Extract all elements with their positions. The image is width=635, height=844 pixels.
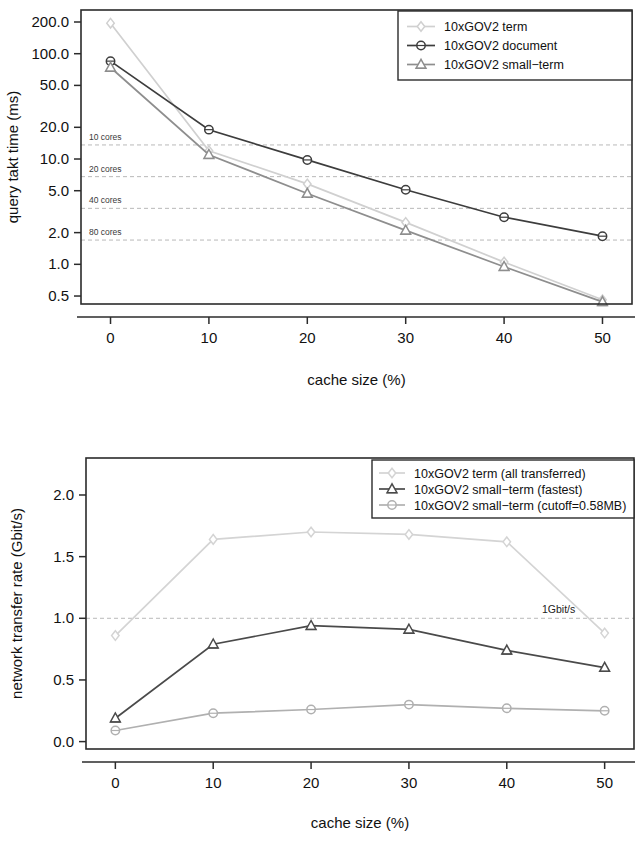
legend-item-2: 10xGOV2 small−term (cutoff=0.58MB) [379, 499, 626, 513]
network-transfer-rate-plot: 1Gbit/s0.00.51.01.52.001020304050cache s… [0, 420, 635, 844]
legend-label-0: 10xGOV2 term (all transferred) [414, 467, 586, 481]
y-tick-label-4: 10.0 [40, 150, 69, 167]
x-tick-label-0: 0 [106, 329, 114, 346]
data-point-1-0 [110, 713, 120, 722]
chart-network-transfer-rate: 1Gbit/s0.00.51.01.52.001020304050cache s… [0, 420, 635, 844]
series-line-1 [111, 61, 603, 236]
legend-label-2: 10xGOV2 small−term (cutoff=0.58MB) [414, 499, 626, 513]
query-takt-time-plot: 10 cores20 cores40 cores80 cores200.0100… [0, 0, 635, 420]
data-point-0-2 [307, 527, 314, 537]
x-tick-label-1: 10 [201, 329, 218, 346]
x-axis-title: cache size (%) [311, 814, 409, 831]
y-tick-label-1: 100.0 [31, 45, 69, 62]
y-tick-label-3: 20.0 [40, 118, 69, 135]
y-tick-label-8: 0.5 [48, 287, 69, 304]
reference-line-label-2: 40 cores [89, 195, 122, 205]
y-tick-label-0: 0.0 [53, 733, 74, 750]
reference-line-label-1: 20 cores [89, 164, 122, 174]
x-tick-label-3: 30 [397, 329, 414, 346]
x-tick-label-1: 10 [205, 774, 222, 791]
x-tick-label-5: 50 [596, 774, 613, 791]
series-2 [111, 700, 609, 734]
series-line-2 [111, 68, 603, 302]
legend-label-1: 10xGOV2 document [444, 39, 558, 53]
x-tick-label-2: 20 [303, 774, 320, 791]
series-2 [105, 62, 607, 305]
x-tick-label-4: 40 [496, 329, 513, 346]
series-1 [106, 57, 606, 240]
x-tick-label-0: 0 [111, 774, 119, 791]
y-tick-label-2: 50.0 [40, 76, 69, 93]
reference-line-label-3: 80 cores [89, 227, 122, 237]
series-0 [112, 527, 609, 640]
x-tick-label-4: 40 [498, 774, 515, 791]
y-tick-label-0: 200.0 [31, 13, 69, 30]
y-tick-label-2: 1.0 [53, 609, 74, 626]
x-axis-title: cache size (%) [307, 371, 405, 388]
reference-line-label-0: 10 cores [89, 132, 122, 142]
y-tick-label-4: 2.0 [53, 486, 74, 503]
reference-line-label-0: 1Gbit/s [542, 603, 575, 615]
data-point-1-2 [306, 620, 316, 629]
y-tick-label-7: 1.0 [48, 255, 69, 272]
y-tick-label-6: 2.0 [48, 224, 69, 241]
series-line-0 [115, 532, 604, 636]
y-tick-label-3: 1.5 [53, 548, 74, 565]
y-axis-title: network transfer rate (Gbit/s) [8, 508, 25, 699]
series-line-1 [115, 626, 604, 719]
legend-label-2: 10xGOV2 small−term [444, 58, 564, 72]
chart-query-takt-time: 10 cores20 cores40 cores80 cores200.0100… [0, 0, 635, 420]
x-tick-label-5: 50 [594, 329, 611, 346]
y-tick-label-5: 5.0 [48, 182, 69, 199]
x-tick-label-2: 20 [299, 329, 316, 346]
legend-label-0: 10xGOV2 term [444, 20, 527, 34]
y-axis-title: query takt time (ms) [4, 91, 21, 224]
series-line-2 [115, 705, 604, 731]
legend-label-1: 10xGOV2 small−term (fastest) [414, 483, 582, 497]
x-tick-label-3: 30 [401, 774, 418, 791]
y-tick-label-1: 0.5 [53, 671, 74, 688]
data-point-0-3 [405, 530, 412, 540]
